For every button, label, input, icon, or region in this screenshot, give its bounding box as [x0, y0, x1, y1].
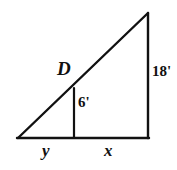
base-right-label: x: [104, 142, 113, 159]
outer-height-label: 18': [152, 64, 171, 79]
triangle-diagram: D 6' 18' y x: [0, 0, 177, 170]
triangle-figure-svg: [0, 0, 177, 170]
hypotenuse-line: [18, 13, 148, 138]
inner-height-label: 6': [78, 95, 90, 110]
base-left-label: y: [42, 142, 50, 159]
point-d-label: D: [57, 59, 71, 78]
